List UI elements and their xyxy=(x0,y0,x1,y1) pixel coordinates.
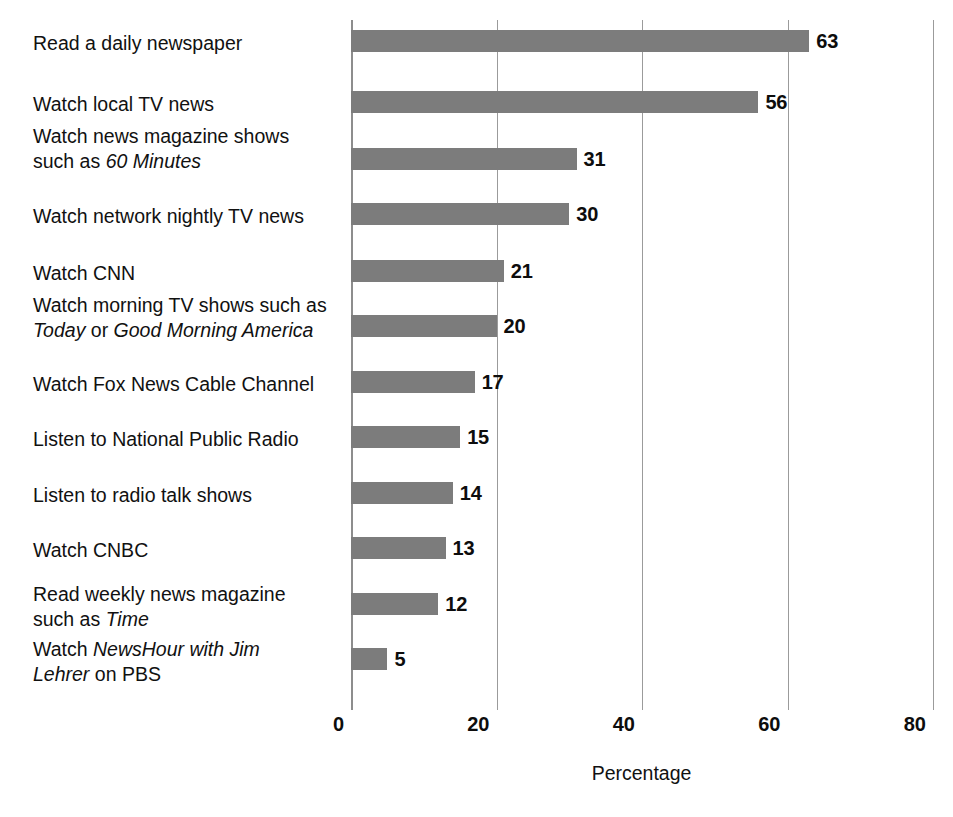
bar-value-label: 5 xyxy=(394,648,405,671)
x-tick-label-20: 20 xyxy=(467,713,496,736)
bar xyxy=(351,537,446,559)
category-label-line: Watch CNN xyxy=(33,261,333,286)
gridline-80 xyxy=(933,20,934,710)
label-text-segment: Watch CNN xyxy=(33,262,135,284)
bar xyxy=(351,371,475,393)
category-label: Watch local TV news xyxy=(33,92,333,117)
label-italic-segment: Lehrer xyxy=(33,663,89,685)
bar-row: 13 xyxy=(351,537,933,559)
category-label-line: Lehrer on PBS xyxy=(33,662,333,687)
label-italic-segment: NewsHour with Jim xyxy=(93,638,260,660)
bar-row: 14 xyxy=(351,482,933,504)
category-label: Watch NewsHour with JimLehrer on PBS xyxy=(33,637,333,687)
bar xyxy=(351,30,809,52)
bar-row: 5 xyxy=(351,648,933,670)
label-text-segment: Read weekly news magazine xyxy=(33,583,286,605)
category-label-line: Watch Fox News Cable Channel xyxy=(33,372,333,397)
label-text-segment: or xyxy=(85,319,113,341)
bar-row: 17 xyxy=(351,371,933,393)
x-axis-title: Percentage xyxy=(0,762,953,785)
category-label-line: Watch CNBC xyxy=(33,538,333,563)
label-text-segment: Watch xyxy=(33,638,93,660)
bar-row: 31 xyxy=(351,148,933,170)
bar xyxy=(351,203,569,225)
label-text-segment: Watch local TV news xyxy=(33,93,214,115)
category-label: Read weekly news magazinesuch as Time xyxy=(33,582,333,632)
category-label-line: Today or Good Morning America xyxy=(33,318,333,343)
bar-value-label: 63 xyxy=(816,30,838,53)
category-label-line: Watch morning TV shows such as xyxy=(33,293,333,318)
bar xyxy=(351,593,438,615)
label-text-segment: Watch morning TV shows such as xyxy=(33,294,327,316)
bar xyxy=(351,91,758,113)
bar-value-label: 15 xyxy=(467,426,489,449)
category-label: Listen to National Public Radio xyxy=(33,427,333,452)
bar-value-label: 30 xyxy=(576,203,598,226)
bar xyxy=(351,426,460,448)
category-label: Watch network nightly TV news xyxy=(33,204,333,229)
category-label: Watch CNBC xyxy=(33,538,333,563)
label-text-segment: Watch CNBC xyxy=(33,539,148,561)
bar-row: 56 xyxy=(351,91,933,113)
bar-row: 12 xyxy=(351,593,933,615)
label-text-segment: Read a daily newspaper xyxy=(33,32,242,54)
bar-row: 30 xyxy=(351,203,933,225)
category-label-line: such as 60 Minutes xyxy=(33,149,333,174)
category-label-line: Listen to National Public Radio xyxy=(33,427,333,452)
category-label-line: Read weekly news magazine xyxy=(33,582,333,607)
label-text-segment: on PBS xyxy=(89,663,161,685)
label-text-segment: Watch network nightly TV news xyxy=(33,205,304,227)
bar-value-label: 56 xyxy=(765,91,787,114)
label-text-segment: Watch Fox News Cable Channel xyxy=(33,373,314,395)
label-text-segment: such as xyxy=(33,608,106,630)
category-label-line: Watch news magazine shows xyxy=(33,124,333,149)
bar xyxy=(351,648,387,670)
label-text-segment: Listen to radio talk shows xyxy=(33,484,252,506)
category-label-line: such as Time xyxy=(33,607,333,632)
x-tick-label-0: 0 xyxy=(333,713,351,736)
label-italic-segment: 60 Minutes xyxy=(106,150,201,172)
label-italic-segment: Time xyxy=(106,608,149,630)
label-italic-segment: Good Morning America xyxy=(114,319,314,341)
category-label-line: Watch network nightly TV news xyxy=(33,204,333,229)
bar-value-label: 13 xyxy=(453,537,475,560)
bar xyxy=(351,315,497,337)
label-italic-segment: Today xyxy=(33,319,85,341)
x-tick-label-40: 40 xyxy=(613,713,642,736)
bar xyxy=(351,260,504,282)
category-label: Listen to radio talk shows xyxy=(33,483,333,508)
category-label: Watch morning TV shows such asToday or G… xyxy=(33,293,333,343)
x-tick-label-60: 60 xyxy=(758,713,787,736)
bar-value-label: 14 xyxy=(460,482,482,505)
x-tick-label-80: 80 xyxy=(904,713,933,736)
category-label-line: Listen to radio talk shows xyxy=(33,483,333,508)
x-axis-title-text: Percentage xyxy=(592,762,692,785)
bar-row: 63 xyxy=(351,30,933,52)
bar-value-label: 21 xyxy=(511,260,533,283)
bar-value-label: 17 xyxy=(482,371,504,394)
category-label: Watch news magazine showssuch as 60 Minu… xyxy=(33,124,333,174)
category-label-line: Watch local TV news xyxy=(33,92,333,117)
bar-row: 20 xyxy=(351,315,933,337)
plot-area: 63563130212017151413125 xyxy=(351,20,933,710)
bar-row: 15 xyxy=(351,426,933,448)
bar xyxy=(351,482,453,504)
bar-value-label: 12 xyxy=(445,593,467,616)
label-text-segment: such as xyxy=(33,150,106,172)
x-axis-tick-labels: 020406080 xyxy=(0,713,953,743)
bar-chart: Read a daily newspaperWatch local TV new… xyxy=(0,0,953,817)
label-text-segment: Listen to National Public Radio xyxy=(33,428,299,450)
category-label-line: Watch NewsHour with Jim xyxy=(33,637,333,662)
bar-value-label: 31 xyxy=(584,148,606,171)
category-label: Read a daily newspaper xyxy=(33,31,333,56)
label-text-segment: Watch news magazine shows xyxy=(33,125,289,147)
bar-row: 21 xyxy=(351,260,933,282)
bar-value-label: 20 xyxy=(504,315,526,338)
category-label: Watch CNN xyxy=(33,261,333,286)
category-label-line: Read a daily newspaper xyxy=(33,31,333,56)
bar xyxy=(351,148,577,170)
category-label: Watch Fox News Cable Channel xyxy=(33,372,333,397)
